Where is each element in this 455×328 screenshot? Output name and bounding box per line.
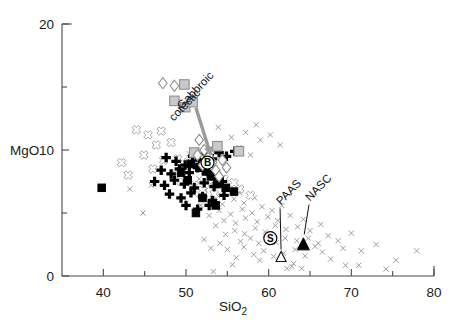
x-tick-label: 60 (261, 285, 276, 300)
paas-leader-line (280, 208, 281, 249)
x-tick-label: 40 (96, 285, 111, 300)
y-axis-title: MgO (10, 143, 39, 158)
paas-label: PAAS (274, 177, 304, 207)
x-tick-label: 80 (426, 285, 441, 300)
basalt-reference-label: B (204, 157, 211, 168)
x-tick-label: 50 (178, 285, 193, 300)
series-paas-marker (276, 251, 286, 261)
x-axis-title: SiO2 (219, 299, 248, 317)
x-tick-label: 70 (344, 285, 359, 300)
axis-ticks (62, 24, 434, 276)
shale-reference-label: S (267, 233, 274, 244)
plot-canvas: 405060708001020 GabbroiccotecticPAASNASC… (0, 0, 455, 328)
plot-frame (62, 24, 434, 276)
data-markers (98, 78, 419, 274)
y-tick-label: 20 (39, 17, 54, 32)
axis-tick-labels: 405060708001020 (39, 17, 442, 300)
y-tick-label: 0 (46, 269, 54, 284)
nasc-leader-line (304, 205, 309, 235)
nasc-label: NASC (303, 172, 334, 203)
mgo-sio2-scatter-figure: 405060708001020 GabbroiccotecticPAASNASC… (0, 0, 455, 328)
series-nasc-marker (297, 238, 309, 250)
y-tick-label: 10 (39, 143, 54, 158)
